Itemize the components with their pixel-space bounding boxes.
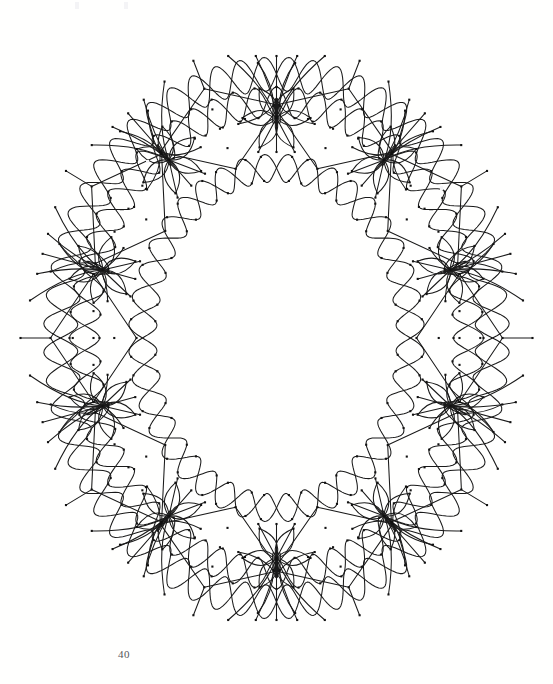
kolam-artwork xyxy=(0,0,553,684)
scan-speck xyxy=(75,2,79,9)
scan-speck xyxy=(124,2,128,9)
ink-layer xyxy=(21,56,533,620)
scan-speck xyxy=(440,186,443,190)
scan-speck xyxy=(146,160,149,163)
page-canvas: 40 xyxy=(0,0,553,684)
page-number: 40 xyxy=(118,648,130,660)
